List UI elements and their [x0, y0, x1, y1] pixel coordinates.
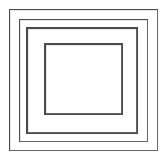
inner-square	[44, 43, 123, 115]
diagram-canvas	[0, 0, 167, 161]
